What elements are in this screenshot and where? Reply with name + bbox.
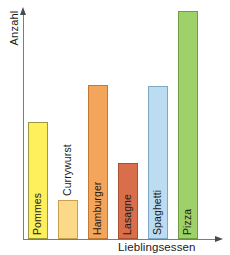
bar-chart: Anzahl Lieblingsessen PommesCurrywurstHa…	[0, 0, 230, 255]
bar-label-pizza: Pizza	[181, 209, 193, 235]
bar-currywurst	[58, 200, 78, 239]
bar-pizza	[178, 11, 198, 239]
bar-label-lasagne: Lasagne	[121, 194, 133, 235]
bar-label-spaghetti: Spaghetti	[151, 190, 163, 235]
bar-label-currywurst: Currywurst	[61, 144, 73, 196]
bar-label-hamburger: Hamburger	[91, 182, 103, 235]
x-axis-title: Lieblingsessen	[118, 241, 195, 253]
y-axis-title: Anzahl	[8, 0, 20, 56]
x-axis-arrow-icon	[215, 236, 223, 242]
bar-label-pommes: Pommes	[31, 193, 43, 235]
y-axis-arrow-icon	[20, 7, 26, 15]
x-axis-line	[23, 239, 216, 240]
y-axis-line	[23, 14, 24, 240]
